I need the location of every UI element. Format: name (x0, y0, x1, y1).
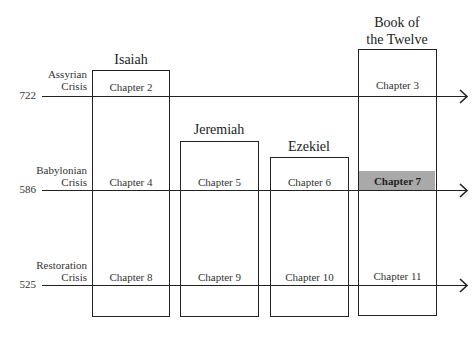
arrow-head-icon (460, 90, 467, 103)
chapter-5: Chapter 5 (180, 176, 259, 189)
book-box-jeremiah (180, 141, 259, 317)
crisis-label-babylonian: Babylonian Crisis (17, 164, 87, 188)
book-title-jeremiah: Jeremiah (180, 121, 258, 138)
chapter-3: Chapter 3 (358, 79, 437, 92)
crisis-label-restoration: Restoration Crisis (17, 259, 87, 283)
arrow-head-icon (460, 184, 467, 197)
chapter-2: Chapter 2 (92, 81, 170, 94)
book-title-twelve: Book of the Twelve (350, 14, 444, 48)
chapter-8: Chapter 8 (92, 271, 170, 284)
chapter-10: Chapter 10 (270, 271, 349, 284)
chapter-7: Chapter 7 (358, 175, 437, 188)
chapter-9: Chapter 9 (180, 271, 259, 284)
arrow-head-icon (460, 279, 467, 292)
crisis-label-assyrian: Assyrian Crisis (17, 68, 87, 92)
chapter-6: Chapter 6 (270, 176, 349, 189)
chapter-11: Chapter 11 (358, 270, 437, 283)
book-title-ezekiel: Ezekiel (270, 138, 348, 155)
chapter-4: Chapter 4 (92, 176, 170, 189)
book-title-isaiah: Isaiah (92, 51, 170, 68)
